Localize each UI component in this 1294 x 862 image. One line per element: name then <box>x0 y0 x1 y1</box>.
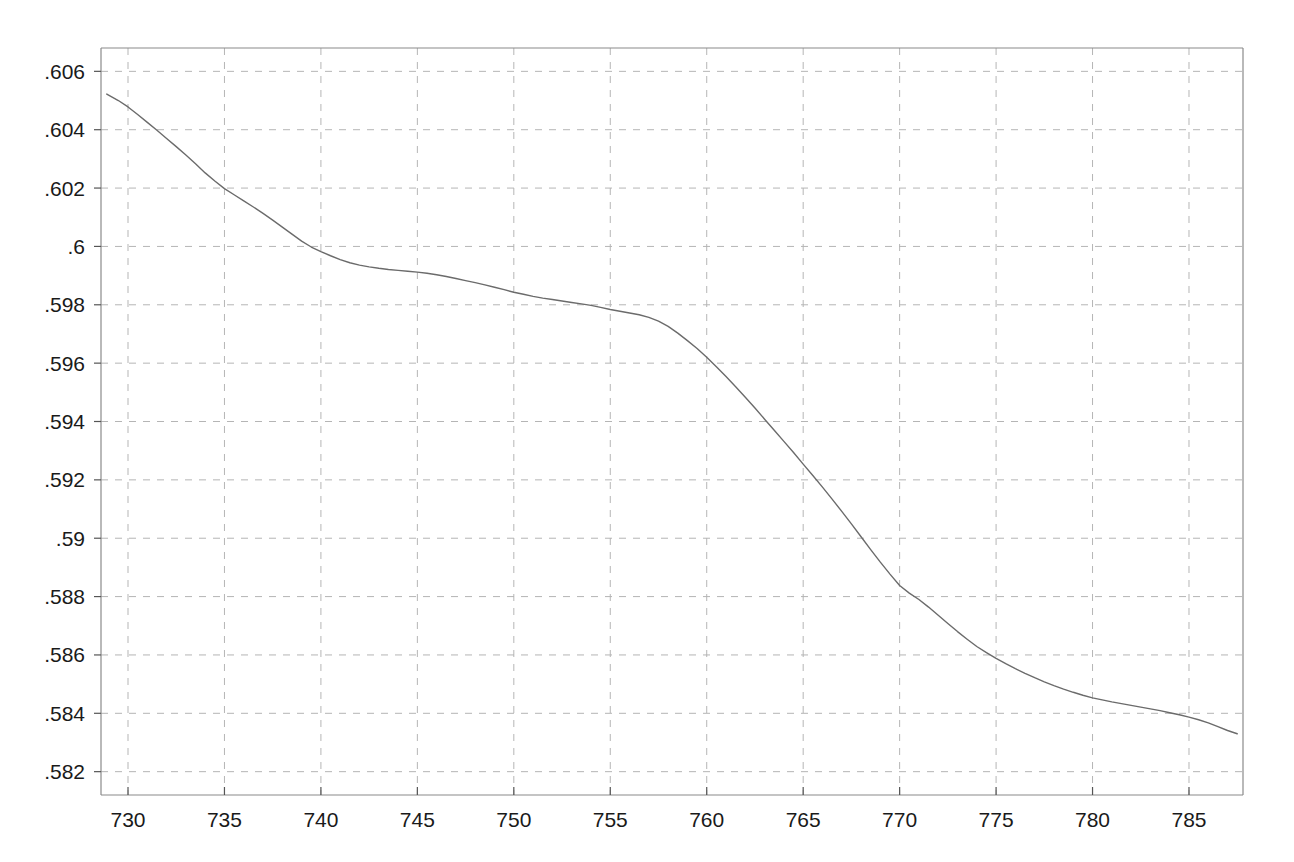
y-axis-tick-label: .59 <box>56 527 85 550</box>
y-axis-tick-label: .602 <box>44 177 85 200</box>
y-axis-tick-label: .596 <box>44 352 85 375</box>
y-axis-tick-label: .586 <box>44 643 85 666</box>
tick-labels-layer: .582.584.586.588.59.592.594.596.598.6.60… <box>44 60 1206 831</box>
y-axis-tick-label: .588 <box>44 585 85 608</box>
y-axis-tick-label: .582 <box>44 760 85 783</box>
y-axis-tick-label: .6 <box>67 235 85 258</box>
line-chart-plot: .582.584.586.588.59.592.594.596.598.6.60… <box>0 0 1294 862</box>
x-axis-tick-label: 780 <box>1075 808 1110 831</box>
y-axis-tick-label: .598 <box>44 293 85 316</box>
x-axis-tick-label: 765 <box>786 808 821 831</box>
x-axis-tick-label: 770 <box>882 808 917 831</box>
y-axis-tick-label: .584 <box>44 702 85 725</box>
y-axis-tick-label: .592 <box>44 468 85 491</box>
x-axis-tick-label: 750 <box>496 808 531 831</box>
chart-container: .582.584.586.588.59.592.594.596.598.6.60… <box>0 0 1294 862</box>
x-axis-tick-label: 785 <box>1171 808 1206 831</box>
data-series-layer <box>107 94 1237 734</box>
y-axis-tick-label: .604 <box>44 118 85 141</box>
x-axis-tick-label: 735 <box>207 808 242 831</box>
y-axis-tick-label: .606 <box>44 60 85 83</box>
x-axis-tick-label: 740 <box>303 808 338 831</box>
x-axis-tick-label: 775 <box>979 808 1014 831</box>
x-axis-tick-label: 730 <box>110 808 145 831</box>
y-axis-tick-label: .594 <box>44 410 85 433</box>
grid-layer <box>101 48 1243 795</box>
x-axis-tick-label: 760 <box>689 808 724 831</box>
tick-marks <box>94 71 1189 795</box>
data-line-1 <box>107 94 1237 734</box>
x-axis-tick-label: 745 <box>400 808 435 831</box>
x-axis-tick-label: 755 <box>593 808 628 831</box>
